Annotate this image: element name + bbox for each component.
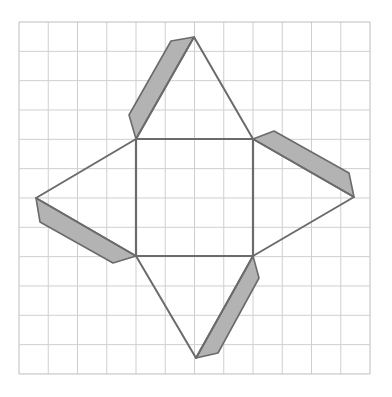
right-tab bbox=[253, 131, 354, 197]
grid-paper bbox=[19, 22, 370, 374]
pyramid-net-diagram bbox=[0, 0, 392, 397]
